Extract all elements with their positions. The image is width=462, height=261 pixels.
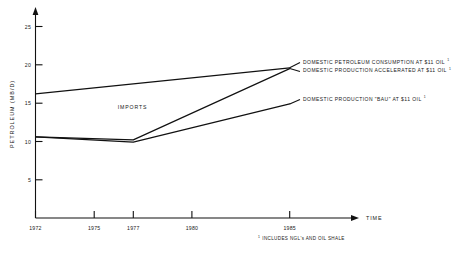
x-tick-label-1985: 1985 (283, 225, 296, 231)
legend-item-consumption-label: DOMESTIC PETROLEUM CONSUMPTION AT $11 OI… (303, 59, 445, 65)
legend-item-bau: DOMESTIC PRODUCTION "BAU" AT $11 OIL1 (303, 95, 426, 101)
footnote-marker: 1 (258, 235, 260, 239)
footnote: 1INCLUDES NGL's AND OIL SHALE (258, 235, 345, 241)
legend-item-accelerated-superscript: 1 (449, 67, 451, 71)
x-tick-label-1977: 1977 (127, 225, 140, 231)
series-line-consumption (36, 68, 290, 94)
series-line-bau-production (36, 104, 290, 142)
x-axis-arrow-label: TIME (366, 215, 382, 221)
footnote-text: INCLUDES NGL's AND OIL SHALE (262, 236, 345, 241)
legend-item-consumption: DOMESTIC PETROLEUM CONSUMPTION AT $11 OI… (303, 58, 450, 64)
y-axis-title: PETROLEUM (MB/D) (9, 80, 15, 148)
y-tick-label-10: 10 (25, 139, 31, 145)
x-tick-label-1972: 1972 (29, 225, 42, 231)
x-axis-arrowhead (351, 215, 359, 221)
legend: DOMESTIC PETROLEUM CONSUMPTION AT $11 OI… (303, 58, 451, 101)
y-axis-arrowhead (33, 7, 39, 15)
series-line-accelerated-production (36, 69, 290, 140)
x-tick-label-1980: 1980 (186, 225, 199, 231)
petroleum-line-chart: 25 20 15 10 5 PETROLEUM (MB/D) 1972 1975… (0, 0, 462, 261)
legend-item-accelerated: DOMESTIC PRODUCTION ACCELERATED AT $11 O… (303, 67, 451, 73)
chart-figure: 25 20 15 10 5 PETROLEUM (MB/D) 1972 1975… (0, 0, 462, 261)
legend-leader-accelerated (290, 69, 300, 72)
y-axis (33, 7, 43, 218)
legend-item-bau-label: DOMESTIC PRODUCTION "BAU" AT $11 OIL (303, 96, 422, 102)
legend-leader-consumption (290, 63, 300, 68)
y-tick-label-20: 20 (25, 62, 31, 68)
x-axis (36, 211, 360, 221)
x-tick-label-1975: 1975 (88, 225, 101, 231)
annotation-imports: IMPORTS (118, 104, 148, 110)
y-tick-label-15: 15 (25, 100, 31, 106)
legend-item-bau-superscript: 1 (424, 95, 426, 99)
legend-item-consumption-superscript: 1 (447, 58, 449, 62)
y-tick-label-25: 25 (25, 24, 31, 30)
legend-item-accelerated-label: DOMESTIC PRODUCTION ACCELERATED AT $11 O… (303, 67, 447, 73)
legend-leader-bau (290, 100, 300, 105)
y-tick-label-5: 5 (28, 177, 31, 183)
